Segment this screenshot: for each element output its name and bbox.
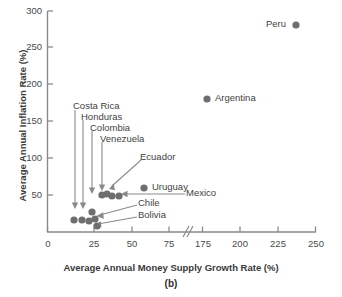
callout-label-venezuela: Venezuela xyxy=(100,133,144,144)
point-label-peru: Peru xyxy=(266,18,286,29)
y-tick-marks xyxy=(48,11,54,195)
marker-chile[interactable] xyxy=(88,208,95,215)
y-axis-title: Average Annual Inflation Rate (%) xyxy=(17,26,28,226)
x-tick-label-200: 200 xyxy=(227,238,253,249)
marker-costa-rica[interactable] xyxy=(70,216,77,223)
callout-label-bolivia: Bolivia xyxy=(138,209,166,220)
figure-caption: (b) xyxy=(0,278,342,289)
callout-label-ecuador: Ecuador xyxy=(140,151,175,162)
callout-label-chile: Chile xyxy=(138,197,160,208)
callout-label-honduras: Honduras xyxy=(81,111,122,122)
x-tick-label-0: 0 xyxy=(40,238,56,249)
x-tick-label-250: 250 xyxy=(303,238,329,249)
y-tick-label-300: 300 xyxy=(6,5,42,16)
point-label-uruguay: Uruguay xyxy=(152,181,188,192)
marker-honduras[interactable] xyxy=(78,216,85,223)
marker-venezuela[interactable] xyxy=(98,191,105,198)
point-label-argentina: Argentina xyxy=(215,92,256,103)
marker-argentina[interactable] xyxy=(203,95,210,102)
marker-cluster-b[interactable] xyxy=(85,217,92,224)
x-tick-label-175: 175 xyxy=(190,238,216,249)
marker-peru[interactable] xyxy=(292,21,299,28)
x-tick-label-225: 225 xyxy=(265,238,291,249)
chart-canvas xyxy=(0,0,342,297)
x-tick-marks xyxy=(48,227,316,233)
x-tick-label-25: 25 xyxy=(84,238,104,249)
x-tick-label-75: 75 xyxy=(159,238,179,249)
callout-label-colombia: Colombia xyxy=(90,122,130,133)
callout-label-costa-rica: Costa Rica xyxy=(73,100,119,111)
marker-mexico[interactable] xyxy=(115,192,122,199)
x-tick-label-50: 50 xyxy=(122,238,142,249)
marker-bolivia[interactable] xyxy=(93,222,100,229)
callout-label-mexico: Mexico xyxy=(186,187,216,198)
marker-uruguay[interactable] xyxy=(140,184,147,191)
x-axis-title: Average Annual Money Supply Growth Rate … xyxy=(0,262,342,273)
scatter-chart-figure: 300 250 200 150 100 50 0 25 50 75 175 20… xyxy=(0,0,342,297)
